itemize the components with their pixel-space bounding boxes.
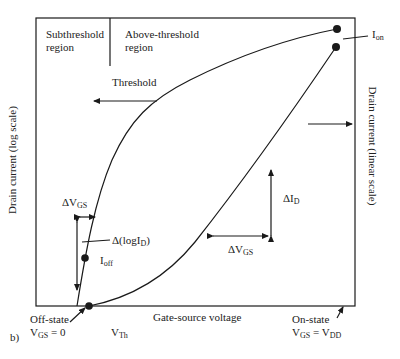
delta-id-label: ΔID bbox=[283, 192, 300, 208]
ioff-label: Ioff bbox=[100, 254, 113, 270]
ioff-dot bbox=[81, 254, 89, 262]
vth-dot bbox=[85, 302, 93, 310]
delta-vgs-left-label: ΔVGS bbox=[62, 196, 87, 212]
on-state-label: On-state VGS = VDD bbox=[292, 313, 341, 342]
above-threshold-region-label: Above-threshold region bbox=[125, 28, 199, 54]
delta-log-id-label: Δ(logID) bbox=[112, 234, 150, 250]
ion-label: Ion bbox=[372, 28, 384, 44]
delta-log-id-leader bbox=[82, 240, 110, 242]
vth-label: VTh bbox=[111, 326, 128, 342]
panel-label: b) bbox=[10, 331, 19, 344]
subthreshold-region-label: Subthreshold region bbox=[46, 28, 104, 54]
delta-vgs-right-label: ΔVGS bbox=[228, 243, 253, 259]
x-axis-label: Gate-source voltage bbox=[153, 311, 241, 324]
off-state-label: Off-state VGS = 0 bbox=[30, 313, 69, 342]
threshold-label: Threshold bbox=[112, 76, 157, 89]
log-scale-curve bbox=[77, 29, 337, 306]
ion-dot-linear bbox=[332, 43, 340, 51]
off-state-pointer bbox=[70, 308, 85, 322]
ion-dot-log bbox=[333, 25, 341, 33]
